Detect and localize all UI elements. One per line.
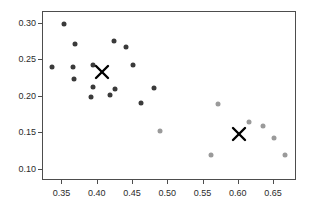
x-tick-mark [97,180,98,184]
x-tick-mark [167,180,168,184]
x-tick-label: 0.40 [88,188,106,198]
x-tick-mark [203,180,204,184]
x-tick-label: 0.65 [264,188,282,198]
x-tick-label: 0.60 [229,188,247,198]
x-tick-label: 0.35 [53,188,71,198]
x-tick-label: 0.45 [123,188,141,198]
y-tick-mark [38,59,42,60]
y-tick-mark [38,23,42,24]
x-axis: 0.350.400.450.500.550.600.65 [0,0,309,213]
x-tick-label: 0.50 [158,188,176,198]
x-tick-mark [238,180,239,184]
x-tick-mark [61,180,62,184]
y-tick-mark [38,169,42,170]
x-tick-mark [273,180,274,184]
x-tick-mark [132,180,133,184]
y-tick-mark [38,132,42,133]
y-tick-mark [38,96,42,97]
x-tick-label: 0.55 [194,188,212,198]
scatter-plot-figure: 0.100.150.200.250.30 0.350.400.450.500.5… [0,0,309,213]
